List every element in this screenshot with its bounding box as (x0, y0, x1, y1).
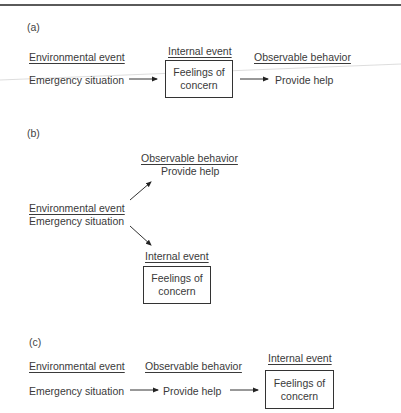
panel-b-internal-box: Feelings of concern (143, 266, 211, 304)
panel-a-internal-box: Feelings of concern (165, 60, 233, 98)
panel-c-internal-box: Feelings of concern (265, 370, 334, 409)
panel-a-environmental-value: Emergency situation (29, 74, 124, 86)
panel-c-environmental-heading: Environmental event (29, 360, 125, 372)
panel-b-internal-line2: concern (151, 285, 202, 298)
panel-b-internal-heading: Internal event (145, 250, 209, 262)
panel-a-tag: (a) (27, 21, 40, 33)
panel-a-environmental-heading: Environmental event (29, 51, 125, 63)
panel-c-tag: (c) (29, 336, 41, 348)
panel-b-observable-heading: Observable behavior (141, 152, 238, 164)
arrow-b-env-to-internal (130, 226, 151, 245)
panel-a-internal-heading: Internal event (168, 45, 232, 57)
panel-a-internal-line2: concern (173, 79, 224, 92)
panel-c-internal-line1: Feelings of (274, 377, 325, 390)
panel-c-internal-line2: concern (274, 390, 325, 403)
panel-b-observable-value: Provide help (161, 165, 219, 177)
panel-b-tag: (b) (27, 127, 40, 139)
panel-b-environmental-value: Emergency situation (29, 215, 124, 227)
panel-a-observable-value: Provide help (275, 74, 333, 86)
panel-a-internal-line1: Feelings of (173, 66, 224, 79)
panel-c-observable-value: Provide help (163, 385, 221, 397)
panel-c-observable-heading: Observable behavior (145, 360, 242, 372)
panel-b-environmental-heading: Environmental event (29, 202, 125, 214)
panel-c-environmental-value: Emergency situation (29, 385, 124, 397)
arrow-b-env-to-behavior (130, 182, 151, 200)
panel-c-internal-heading: Internal event (268, 352, 332, 364)
panel-b-internal-line1: Feelings of (151, 272, 202, 285)
panel-a-observable-heading: Observable behavior (254, 51, 351, 63)
